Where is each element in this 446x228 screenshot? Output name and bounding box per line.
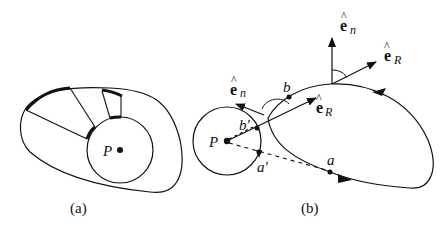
diagram-canvas: P (a) P (0, 0, 446, 228)
label-en-top-sub: n (350, 23, 356, 37)
label-er-top: e (384, 47, 391, 64)
label-a: a (327, 152, 335, 168)
point-b-prime (255, 126, 260, 131)
panel-b: P b b′ a a′ ^ e n ^ e (193, 9, 433, 217)
point-a (328, 170, 333, 175)
label-b: b (283, 79, 291, 95)
point-p-label-b: P (208, 134, 218, 150)
panel-a: P (a) (20, 88, 182, 217)
point-p-dot (117, 147, 123, 153)
ray-1 (26, 110, 87, 139)
label-er-top-sub: R (393, 53, 402, 67)
thick-arc-outer-2 (102, 90, 122, 96)
dashed-line-a (229, 143, 330, 171)
label-en-left-sub: n (240, 86, 246, 100)
ray-3 (102, 91, 110, 118)
point-a-prime (257, 150, 262, 155)
label-b-prime: b′ (239, 117, 251, 133)
label-er-mid-sub: R (324, 105, 333, 119)
ray-2 (70, 88, 95, 127)
label-en-top: e (340, 17, 347, 34)
angle-arc-top (332, 70, 346, 78)
label-er-mid: e (316, 99, 323, 116)
caption-b: (b) (301, 200, 319, 217)
thick-arc-inner-1 (87, 127, 95, 139)
point-b (287, 95, 292, 100)
thick-arc-inner-2 (110, 117, 121, 118)
caption-a: (a) (70, 200, 87, 217)
point-p-label: P (102, 143, 112, 159)
thick-arc-outer-1 (26, 88, 70, 110)
closed-curve (268, 84, 433, 188)
label-a-prime: a′ (257, 159, 269, 175)
label-en-left: e (230, 81, 237, 98)
ray-e-r-top (332, 62, 376, 84)
